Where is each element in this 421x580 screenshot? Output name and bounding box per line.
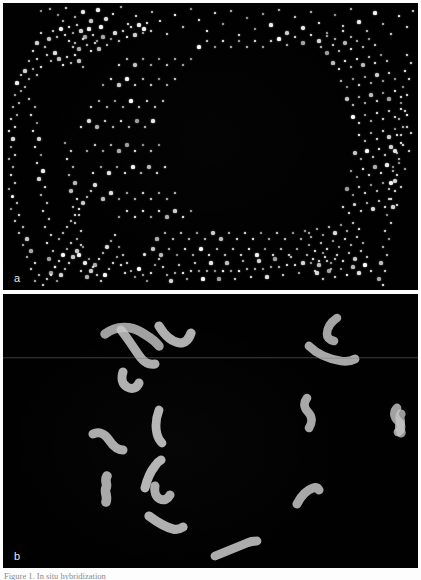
fish-signal-dot	[34, 146, 36, 148]
fish-signal-dot	[219, 237, 222, 240]
fish-signal-dot	[80, 126, 82, 128]
fish-signal-dot	[412, 10, 414, 12]
fish-signal-dot	[78, 214, 80, 216]
fish-signal-dot	[356, 176, 358, 178]
fish-signal-dot	[158, 210, 160, 212]
fish-signal-dot	[174, 58, 177, 61]
fish-signal-dot	[358, 84, 360, 86]
fish-signal-dot	[81, 10, 84, 13]
fish-signal-dot	[394, 78, 397, 81]
fish-signal-dot	[16, 114, 18, 116]
fish-signal-dot	[348, 252, 350, 254]
fish-signal-dot	[318, 22, 320, 24]
fish-signal-dot	[374, 62, 376, 64]
fish-signal-dot	[342, 206, 344, 208]
fish-signal-dot	[373, 11, 376, 14]
fish-signal-dot	[382, 182, 384, 184]
fish-signal-dot	[373, 165, 376, 168]
fish-signal-dot	[126, 36, 128, 38]
fish-signal-dot	[398, 162, 401, 165]
fish-signal-dot	[128, 126, 130, 128]
fish-signal-dot	[97, 47, 100, 50]
fish-signal-dot	[260, 232, 263, 235]
fish-signal-dot	[238, 270, 240, 272]
fish-signal-dot	[49, 8, 51, 10]
fish-signal-dot	[102, 84, 104, 86]
fish-signal-dot	[298, 272, 301, 275]
fish-signal-dot	[118, 40, 121, 43]
fish-signal-dot	[352, 78, 354, 80]
fish-signal-dot	[358, 96, 360, 98]
fish-signal-dot	[112, 126, 114, 128]
fish-signal-dot	[362, 242, 364, 244]
fish-signal-dot	[112, 262, 115, 265]
fish-signal-dot	[14, 126, 16, 128]
fish-signal-dot	[72, 32, 75, 35]
fish-signal-dot	[40, 154, 42, 156]
fish-signal-dot	[72, 46, 75, 49]
fish-signal-dot	[104, 17, 107, 20]
fish-signal-dot	[154, 264, 156, 266]
fish-signal-dot	[164, 232, 167, 235]
fish-signal-dot	[240, 254, 243, 257]
fish-signal-dot	[118, 216, 121, 219]
fish-signal-dot	[248, 248, 250, 250]
panel-a-label: a	[14, 273, 20, 284]
fish-signal-dot	[390, 222, 393, 225]
fish-signal-dot	[361, 63, 364, 66]
fish-signal-dot	[190, 270, 192, 272]
fish-signal-dot	[96, 8, 99, 11]
fish-signal-dot	[36, 162, 38, 164]
fish-signal-dot	[286, 264, 288, 266]
fish-signal-dot	[394, 116, 396, 118]
fish-signal-dot	[86, 44, 88, 46]
fish-signal-dot	[352, 104, 354, 106]
fish-signal-dot	[166, 64, 168, 66]
fish-signal-dot	[348, 212, 350, 214]
fish-signal-dot	[398, 158, 401, 161]
fish-signal-dot	[94, 42, 97, 45]
fish-signal-dot	[90, 50, 92, 52]
fish-signal-dot	[79, 29, 82, 32]
fish-signal-dot	[99, 25, 102, 28]
fish-signal-dot	[265, 275, 268, 278]
fish-signal-dot	[70, 220, 73, 223]
fish-signal-dot	[114, 234, 116, 236]
fish-signal-dot	[50, 274, 52, 276]
fish-signal-dot	[325, 51, 328, 54]
fish-signal-dot	[190, 58, 193, 61]
fish-signal-dot	[158, 144, 161, 147]
fish-signal-dot	[90, 190, 93, 193]
fish-signal-dot	[59, 27, 62, 30]
fish-signal-dot	[32, 130, 35, 133]
fish-signal-dot	[77, 59, 80, 62]
fish-signal-dot	[77, 253, 80, 256]
fish-signal-dot	[32, 68, 35, 71]
fish-signal-dot	[301, 261, 304, 264]
fish-signal-dot	[142, 58, 144, 60]
fish-signal-dot	[94, 144, 96, 146]
fish-signal-dot	[166, 33, 168, 35]
fish-signal-dot	[360, 158, 362, 160]
fish-signal-dot	[76, 238, 79, 241]
fish-signal-dot	[382, 118, 384, 120]
fish-signal-dot	[201, 277, 204, 280]
fish-signal-dot	[385, 163, 388, 166]
fish-signal-dot	[93, 183, 96, 186]
fish-signal-dot	[364, 140, 367, 143]
fish-signal-dot	[386, 214, 388, 216]
fish-signal-dot	[296, 248, 298, 250]
fish-signal-dot	[368, 38, 370, 40]
fish-signal-dot	[351, 265, 354, 268]
fish-signal-dot	[393, 179, 396, 182]
fish-signal-dot	[70, 150, 72, 152]
fish-signal-dot	[80, 230, 83, 233]
fish-signal-dot	[137, 267, 140, 270]
fish-signal-dot	[406, 114, 408, 116]
fish-signal-dot	[25, 237, 28, 240]
fish-signal-dot	[336, 254, 338, 256]
fish-signal-dot	[50, 60, 53, 63]
fish-signal-dot	[396, 204, 399, 207]
fish-signal-dot	[396, 174, 398, 176]
fish-signal-dot	[74, 214, 77, 217]
